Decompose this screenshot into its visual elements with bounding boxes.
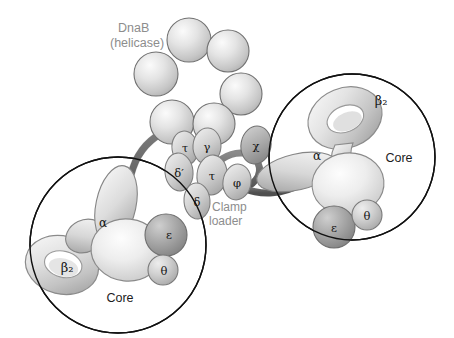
epsilon-right-label: ε (331, 221, 337, 235)
clamp-loader-label: Clamp loader (209, 200, 247, 228)
theta-right-label: θ (364, 209, 371, 223)
dnab-subunit-sphere (134, 52, 178, 96)
core-left-label: Core (106, 291, 133, 305)
tau-upper-label: τ (182, 142, 188, 155)
dnab-label-line2: (helicase) (110, 36, 164, 50)
tau-lower-label: τ (209, 169, 215, 183)
beta2-left-label: β₂ (61, 260, 74, 275)
core-right-label: Core (385, 151, 412, 165)
clamp-loader-label-line2: loader (209, 214, 242, 228)
dnab-subunit-sphere (207, 30, 249, 72)
dna-polymerase-holoenzyme-figure: DnaB (helicase) β₂ α ε θ Core τ (0, 0, 454, 338)
gamma-label: γ (204, 140, 211, 154)
phi-label: φ (233, 176, 241, 190)
dnab-label-line1: DnaB (118, 21, 149, 35)
theta-left-label: θ (161, 264, 168, 278)
alpha-right-label: α (313, 149, 321, 163)
epsilon-left-label: ε (166, 228, 172, 242)
alpha-left-label: α (99, 216, 107, 230)
clamp-loader-label-line1: Clamp (212, 200, 247, 214)
chi-label: χ (253, 139, 260, 153)
dnab-subunit-sphere (167, 18, 211, 62)
beta2-right-label: β₂ (375, 93, 388, 108)
